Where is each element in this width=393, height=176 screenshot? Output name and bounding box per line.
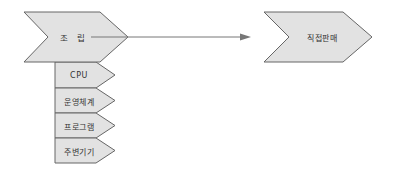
diagram-canvas <box>0 0 393 176</box>
main-stage-label: 조 립 <box>60 31 88 43</box>
sub-item-label-cpu: CPU <box>70 71 88 80</box>
sub-item-label-os: 운영체계 <box>64 95 94 106</box>
target-stage-label: 직접판매 <box>307 32 337 43</box>
sub-item-label-program: 프로그램 <box>64 120 94 131</box>
sub-item-label-peripheral: 주변기기 <box>64 145 94 156</box>
arrow-head-icon <box>240 34 251 41</box>
